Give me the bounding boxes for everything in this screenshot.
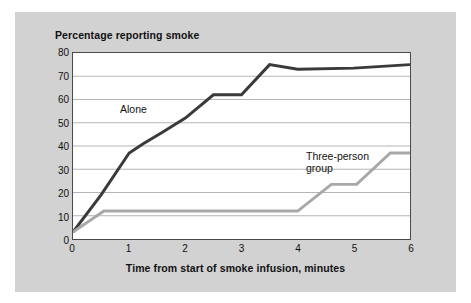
x-tick-label: 6 xyxy=(408,243,414,254)
y-axis-tick-labels: 01020304050607080 xyxy=(37,52,69,240)
y-tick-label: 60 xyxy=(58,94,69,105)
x-tick-label: 0 xyxy=(69,243,75,254)
x-tick-label: 3 xyxy=(239,243,245,254)
y-tick-label: 50 xyxy=(58,117,69,128)
x-tick-label: 4 xyxy=(295,243,301,254)
chart-figure: Percentage reporting smoke 0102030405060… xyxy=(15,12,456,292)
y-tick-label: 30 xyxy=(58,164,69,175)
y-tick-label: 40 xyxy=(58,141,69,152)
gridlines xyxy=(73,76,410,216)
series-label-three-person-group: Three-person group xyxy=(306,151,369,174)
y-tick-label: 70 xyxy=(58,70,69,81)
x-axis-tick-labels: 0123456 xyxy=(72,243,411,259)
series-line-alone xyxy=(73,65,410,232)
chart-svg xyxy=(73,53,410,239)
plot-area xyxy=(72,52,411,240)
series-label-alone: Alone xyxy=(120,104,147,116)
x-tick-label: 5 xyxy=(352,243,358,254)
y-tick-label: 20 xyxy=(58,188,69,199)
y-tick-label: 80 xyxy=(58,47,69,58)
x-tick-label: 2 xyxy=(182,243,188,254)
x-tick-label: 1 xyxy=(126,243,132,254)
chart-title: Percentage reporting smoke xyxy=(55,29,199,41)
x-axis-title: Time from start of smoke infusion, minut… xyxy=(15,262,456,274)
y-tick-label: 10 xyxy=(58,211,69,222)
series-label-group-line2: group xyxy=(306,163,369,175)
series-label-alone-text: Alone xyxy=(120,103,147,115)
series-lines xyxy=(73,65,410,232)
series-label-group-line1: Three-person xyxy=(306,151,369,163)
y-tick-label: 0 xyxy=(63,235,69,246)
